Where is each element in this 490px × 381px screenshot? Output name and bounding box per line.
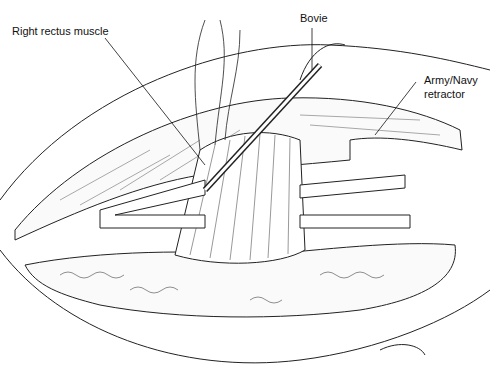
label-bovie: Bovie (300, 12, 328, 25)
label-retractor-line1: Army/Navy (424, 74, 478, 87)
surgical-illustration: Right rectus muscle Bovie Army/Navy retr… (0, 0, 490, 381)
retractor-right (300, 175, 410, 228)
illustration-drawing (0, 0, 490, 381)
umbilicus-mark (380, 345, 425, 355)
label-retractor-line2: retractor (424, 88, 465, 101)
label-right-rectus-muscle: Right rectus muscle (12, 25, 109, 38)
